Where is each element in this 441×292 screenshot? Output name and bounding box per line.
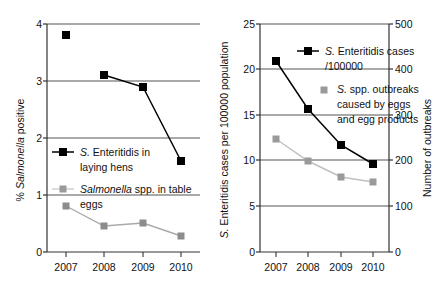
right-legend-label-outbreaks-line2: caused by eggs xyxy=(337,98,411,110)
right-xtick-2010: 2010 xyxy=(361,261,385,273)
left-legend-label-enteritidis-line1: S. Enteritidis in xyxy=(80,146,150,158)
right-x-tick-labels: 2007 2008 2009 2010 xyxy=(264,261,385,273)
left-black-point-2009 xyxy=(139,83,147,91)
left-xtick-2008: 2008 xyxy=(92,261,116,273)
right-xtick-2008: 2008 xyxy=(296,261,320,273)
left-xtick-2007: 2007 xyxy=(54,261,78,273)
svg-text:S. Enteritidis cases per 10000: S. Enteritidis cases per 100000 populati… xyxy=(218,41,230,238)
right-y2-axis-title-text: Number of outbreaks xyxy=(421,99,433,197)
left-series-s-enteritidis xyxy=(62,31,185,165)
left-legend-black-marker-icon xyxy=(59,148,67,156)
left-legend-entry-enteritidis[interactable]: S. Enteritidis in laying hens xyxy=(52,146,150,173)
left-black-point-2010 xyxy=(177,157,185,165)
right-legend: S. Enteritidis cases /100000 S. spp. out… xyxy=(297,45,419,125)
left-ytick-2: 2 xyxy=(36,132,42,144)
left-black-point-2008 xyxy=(100,71,108,79)
right-y2tick-100: 100 xyxy=(395,200,413,212)
right-ytick-10: 10 xyxy=(243,154,255,166)
right-gray-point-2008 xyxy=(305,158,312,165)
left-legend-label-spp-line1: Salmonella spp. in table xyxy=(80,183,192,195)
left-y-tick-labels: 4 3 2 1 0 xyxy=(36,18,42,258)
right-y2tick-500: 500 xyxy=(395,18,413,30)
right-ytick-20: 20 xyxy=(243,63,255,75)
right-legend-black-marker-icon xyxy=(304,47,312,55)
right-black-point-2010 xyxy=(369,160,377,168)
right-y2tick-400: 400 xyxy=(395,63,413,75)
right-ytick-25: 25 xyxy=(243,18,255,30)
right-y-tick-labels: 25 20 15 10 5 0 xyxy=(243,18,255,258)
right-ytick-15: 15 xyxy=(243,109,255,121)
left-y-axis-title-suffix: positive xyxy=(14,98,26,137)
right-legend-gray-marker-icon xyxy=(321,87,328,94)
left-gray-point-2010 xyxy=(178,233,185,240)
left-ytick-0: 0 xyxy=(36,246,42,258)
right-black-point-2008 xyxy=(304,105,312,113)
left-y-axis-title: % Salmonella positive xyxy=(14,98,26,201)
right-ytick-0: 0 xyxy=(249,246,255,258)
left-ytick-4: 4 xyxy=(36,18,42,30)
right-xtick-2009: 2009 xyxy=(329,261,353,273)
right-chart-svg: S. Enteritidis cases per 100000 populati… xyxy=(215,0,441,292)
right-legend-label-cases-line2: /100000 xyxy=(325,60,363,72)
right-gray-point-2010 xyxy=(370,179,377,186)
left-y-axis-title-prefix: % xyxy=(14,189,26,201)
chart-panel-left: % Salmonella positive 4 3 2 1 0 xyxy=(0,0,215,292)
right-black-point-2007 xyxy=(272,57,280,65)
left-chart-svg: % Salmonella positive 4 3 2 1 0 xyxy=(0,0,215,292)
right-gray-point-2009 xyxy=(338,174,345,181)
left-ytick-3: 3 xyxy=(36,75,42,87)
right-y-axis-title: S. Enteritidis cases per 100000 populati… xyxy=(218,41,230,238)
right-xtick-2007: 2007 xyxy=(264,261,288,273)
right-legend-entry-spp-outbreaks[interactable]: S. spp. outbreaks caused by eggs and egg… xyxy=(321,83,419,125)
right-y2tick-200: 200 xyxy=(395,154,413,166)
left-xtick-2009: 2009 xyxy=(131,261,155,273)
right-y2-axis-title: Number of outbreaks xyxy=(421,99,433,197)
chart-panel-right: S. Enteritidis cases per 100000 populati… xyxy=(215,0,441,292)
left-legend: S. Enteritidis in laying hens Salmonella… xyxy=(52,146,192,210)
left-legend-label-spp-line2: eggs xyxy=(80,198,103,210)
svg-text:% Salmonella positive: % Salmonella positive xyxy=(14,98,26,201)
left-axes xyxy=(43,24,200,257)
right-black-point-2009 xyxy=(337,141,345,149)
left-ytick-1: 1 xyxy=(36,189,42,201)
left-black-point-2007 xyxy=(62,31,70,39)
left-gray-line xyxy=(66,206,181,236)
right-legend-label-outbreaks-line3: and egg products xyxy=(337,113,418,125)
left-xtick-2010: 2010 xyxy=(169,261,193,273)
left-gray-point-2008 xyxy=(101,223,108,230)
left-gray-point-2009 xyxy=(140,220,147,227)
left-gray-point-2007 xyxy=(63,203,70,210)
left-y-axis-title-italic: Salmonella xyxy=(14,137,26,189)
left-x-tick-labels: 2007 2008 2009 2010 xyxy=(54,261,193,273)
right-legend-label-cases-line1: S. Enteritidis cases xyxy=(325,45,414,57)
left-legend-gray-marker-icon xyxy=(60,186,67,193)
right-legend-label-outbreaks-line1: S. spp. outbreaks xyxy=(337,83,419,95)
right-y-axis-title-rest: Enteritidis cases per 100000 population xyxy=(218,41,230,228)
right-y2tick-0: 0 xyxy=(395,246,401,258)
right-ytick-5: 5 xyxy=(249,200,255,212)
right-gray-point-2007 xyxy=(273,136,280,143)
left-legend-label-enteritidis-line2: laying hens xyxy=(80,161,133,173)
left-legend-entry-salmonella-spp[interactable]: Salmonella spp. in table eggs xyxy=(52,183,192,210)
right-y-axis-title-italic: S. xyxy=(218,228,230,238)
figure-two-panel-line-charts: % Salmonella positive 4 3 2 1 0 xyxy=(0,0,441,292)
